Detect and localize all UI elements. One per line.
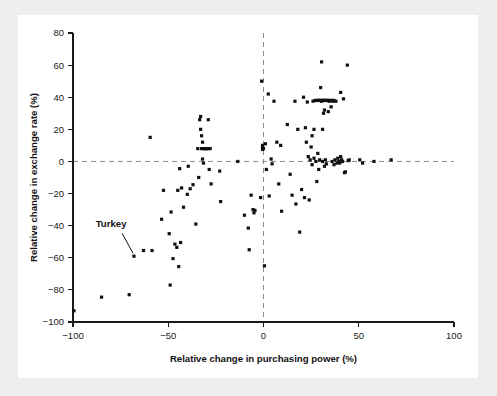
data-point — [332, 163, 335, 166]
data-point — [219, 200, 222, 203]
data-point — [270, 157, 273, 160]
data-point — [150, 249, 153, 252]
y-tick-label: 40 — [53, 92, 64, 103]
data-point — [339, 91, 342, 94]
data-point — [265, 168, 268, 171]
data-point — [298, 230, 301, 233]
y-tick-label: −100 — [43, 316, 64, 327]
data-point — [175, 246, 178, 249]
x-tick-label: 100 — [446, 330, 462, 341]
data-point — [178, 167, 181, 170]
data-point — [314, 160, 317, 163]
data-point — [315, 180, 318, 183]
data-point — [198, 118, 201, 121]
data-point — [324, 158, 327, 161]
data-point — [302, 96, 305, 99]
data-point — [286, 123, 289, 126]
data-point — [294, 202, 297, 205]
data-point — [338, 161, 341, 164]
data-point — [207, 118, 210, 121]
data-point — [191, 183, 194, 186]
turkey-annotation-label: Turkey — [96, 218, 127, 229]
data-point — [317, 168, 320, 171]
data-point — [236, 160, 239, 163]
data-point — [169, 283, 172, 286]
data-point — [177, 265, 180, 268]
data-point — [179, 241, 182, 244]
data-point — [208, 168, 211, 171]
y-tick-label: −60 — [48, 252, 64, 263]
data-point — [247, 226, 250, 229]
data-point — [336, 157, 339, 160]
data-point — [319, 86, 322, 89]
data-point — [322, 112, 325, 115]
y-tick-label: −80 — [48, 284, 64, 295]
data-point — [194, 222, 197, 225]
data-point — [200, 134, 203, 137]
data-point — [189, 187, 192, 190]
data-point — [196, 147, 199, 150]
data-point — [330, 160, 333, 163]
data-point — [339, 155, 342, 158]
data-point — [259, 196, 262, 199]
data-point — [272, 100, 275, 103]
data-point — [160, 218, 163, 221]
data-point — [312, 157, 315, 160]
data-point — [308, 198, 311, 201]
data-point — [310, 163, 313, 166]
data-point — [197, 176, 200, 179]
data-point — [344, 170, 347, 173]
data-point — [264, 142, 267, 145]
data-point — [261, 144, 264, 147]
data-point — [202, 161, 205, 164]
data-point — [243, 214, 246, 217]
x-tick-label: −50 — [160, 330, 176, 341]
data-point — [132, 255, 135, 258]
data-point — [325, 162, 328, 165]
turkey-leader-line — [122, 233, 133, 253]
data-point — [199, 128, 202, 131]
data-point — [310, 134, 313, 137]
data-point — [268, 194, 271, 197]
data-point — [267, 92, 270, 95]
data-point — [173, 243, 176, 246]
figure-root: −100−80−60−40−20020406080−100−50050100Re… — [0, 0, 497, 396]
data-point-group — [72, 60, 392, 312]
data-point — [309, 158, 312, 161]
y-tick-label: 0 — [59, 156, 64, 167]
data-point — [348, 158, 351, 161]
data-point — [201, 157, 204, 160]
x-tick-label: 0 — [261, 330, 266, 341]
data-point — [270, 162, 273, 165]
x-tick-label: −100 — [62, 330, 83, 341]
data-point — [277, 182, 280, 185]
data-point — [305, 141, 308, 144]
data-point — [303, 196, 306, 199]
data-point — [209, 147, 212, 150]
data-point — [321, 160, 324, 163]
data-point — [128, 293, 131, 296]
y-tick-label: 60 — [53, 60, 64, 71]
data-point — [176, 189, 179, 192]
x-axis-title: Relative change in purchasing power (%) — [170, 353, 357, 364]
scatter-plot: −100−80−60−40−20020406080−100−50050100Re… — [18, 15, 478, 378]
data-point — [263, 264, 266, 267]
data-point — [334, 100, 337, 103]
data-point — [280, 210, 283, 213]
data-point — [358, 158, 361, 161]
data-point — [260, 80, 263, 83]
data-point — [372, 160, 375, 163]
data-point — [361, 161, 364, 164]
data-point — [182, 206, 185, 209]
data-point — [342, 97, 345, 100]
data-point — [201, 141, 204, 144]
y-tick-label: 20 — [53, 124, 64, 135]
data-point — [290, 194, 293, 197]
y-tick-label: −40 — [48, 220, 64, 231]
data-point — [306, 100, 309, 103]
data-point — [149, 136, 152, 139]
y-tick-label: 80 — [53, 27, 64, 38]
data-point — [100, 296, 103, 299]
data-point — [279, 144, 282, 147]
data-point — [218, 169, 221, 172]
